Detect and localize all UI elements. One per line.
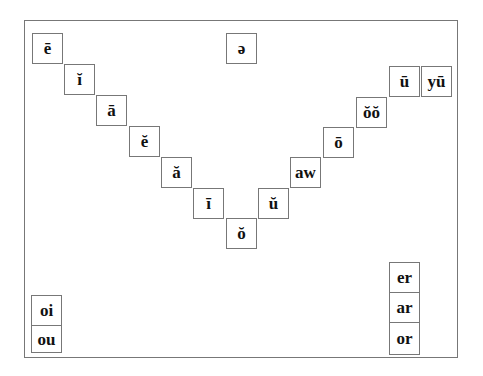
diphthong-box: oi — [31, 295, 62, 326]
vowel-box: ū — [389, 66, 420, 97]
r-controlled-box: ar — [389, 292, 420, 323]
vowel-box: yū — [421, 66, 452, 97]
r-controlled-box: er — [389, 262, 420, 293]
vowel-box: ō — [323, 127, 354, 158]
vowel-box: ē — [32, 33, 63, 64]
vowel-box: ĕ — [129, 126, 160, 157]
vowel-box: ŏŏ — [356, 97, 387, 128]
vowel-box: ĭ — [64, 64, 95, 95]
vowel-box: ŭ — [258, 188, 289, 219]
vowel-box: aw — [290, 157, 321, 188]
schwa-box: ə — [226, 33, 257, 64]
vowel-box: ā — [96, 95, 127, 126]
vowel-box: ŏ — [226, 218, 257, 249]
vowel-box: ă — [161, 157, 192, 188]
r-controlled-box: or — [389, 322, 420, 355]
diphthong-box: ou — [31, 325, 62, 353]
vowel-box: ī — [193, 188, 224, 219]
